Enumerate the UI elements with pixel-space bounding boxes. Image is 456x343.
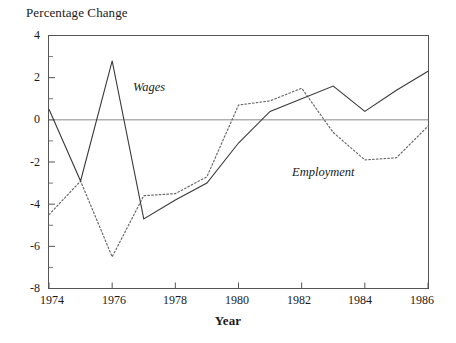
series-label-employment: Employment <box>292 165 354 180</box>
y-tick-label-minus-2: -2 <box>14 155 40 170</box>
plot-frame <box>49 36 429 289</box>
x-tick-label-1982: 1982 <box>277 293 321 308</box>
wages-series-line <box>49 61 428 219</box>
y-tick-label-0: 0 <box>14 112 40 127</box>
y-tick-label-2: 2 <box>14 70 40 85</box>
x-tick-label-1974: 1974 <box>30 293 74 308</box>
y-tick-label-4: 4 <box>14 28 40 43</box>
y-axis-title: Percentage Change <box>26 5 128 21</box>
x-tick-label-1980: 1980 <box>215 293 259 308</box>
y-tick-label-minus-4: -4 <box>14 197 40 212</box>
series-label-wages: Wages <box>133 80 165 95</box>
y-tick-label-minus-6: -6 <box>14 239 40 254</box>
x-tick-label-1986: 1986 <box>400 293 444 308</box>
plot-area <box>0 0 456 343</box>
axis-tick-marks <box>49 36 428 289</box>
x-axis-title: Year <box>0 313 456 329</box>
employment-series-line <box>49 88 428 257</box>
x-tick-label-1976: 1976 <box>92 293 136 308</box>
x-tick-label-1978: 1978 <box>153 293 197 308</box>
chart-container: Percentage Change 4 2 0 -2 -4 -6 -8 1974… <box>0 0 456 343</box>
x-tick-label-1984: 1984 <box>338 293 382 308</box>
